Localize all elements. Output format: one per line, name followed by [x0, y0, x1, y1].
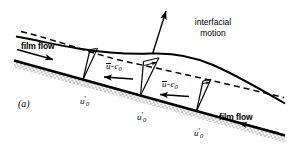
wall: [14, 61, 285, 143]
panel-label: (a): [18, 99, 30, 110]
relative-velocity-1-sub: 0: [119, 65, 122, 72]
relative-velocity-label-2: u-c0: [162, 80, 178, 90]
wall-velocity-label-3: u'0: [194, 128, 203, 139]
film-flow-right-label: film flow: [219, 113, 253, 122]
wall-velocity-label-1: u'0: [80, 96, 89, 107]
dashed-line-path: [21, 32, 284, 98]
interfacial-motion-arrow: [153, 11, 167, 54]
wall-velocity-label-2: u'0: [137, 112, 146, 123]
wall-velocity-3-sub: 0: [200, 132, 203, 139]
profile-2-arrow: [144, 62, 157, 65]
relative-velocity-2-sub: 0: [175, 83, 178, 90]
relative-velocity-1-bar-symbol: u: [106, 62, 111, 71]
relative-velocity-label-1: u-c0: [106, 62, 122, 72]
wall-velocity-1-sub: 0: [86, 100, 89, 107]
interface-curve: [16, 37, 285, 104]
interfacial-motion-label: interfacial motion: [178, 17, 248, 38]
relative-flow-arrow-2: [160, 95, 189, 97]
velocity-profile-2: [141, 58, 160, 96]
mean-interface-dashed-line: [21, 32, 284, 98]
velocity-profile-3: [197, 79, 212, 111]
velocity-profile-1: [83, 48, 98, 79]
figure-panel-a: interfacial motion film flow film flow (…: [0, 0, 287, 156]
interfacial-motion-line1: interfacial: [178, 17, 248, 28]
interface-path: [16, 37, 285, 104]
relative-flow-arrow-1: [104, 77, 133, 79]
film-flow-left-label: film flow: [21, 42, 55, 51]
film-flow-arrow-left: [17, 50, 53, 60]
wall-velocity-2-sub: 0: [143, 116, 146, 123]
interfacial-motion-line2: motion: [178, 28, 248, 39]
relative-velocity-2-bar-symbol: u: [162, 80, 167, 89]
